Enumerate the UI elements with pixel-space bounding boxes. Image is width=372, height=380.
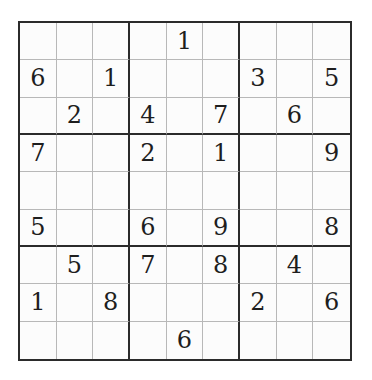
sudoku-cell[interactable]	[313, 322, 350, 359]
sudoku-cell[interactable]	[167, 284, 204, 321]
sudoku-cell[interactable]	[93, 172, 130, 209]
sudoku-cell[interactable]: 6	[20, 60, 57, 97]
sudoku-cell[interactable]	[20, 247, 57, 284]
sudoku-cell[interactable]	[57, 135, 94, 172]
sudoku-cell[interactable]: 7	[203, 98, 240, 135]
sudoku-cell[interactable]	[203, 284, 240, 321]
sudoku-cell[interactable]	[313, 172, 350, 209]
sudoku-cell[interactable]: 5	[57, 247, 94, 284]
sudoku-cell[interactable]	[57, 322, 94, 359]
sudoku-cell[interactable]: 6	[277, 98, 314, 135]
sudoku-cell[interactable]	[240, 23, 277, 60]
sudoku-cell[interactable]	[167, 135, 204, 172]
sudoku-cell[interactable]	[313, 23, 350, 60]
sudoku-cell[interactable]	[277, 322, 314, 359]
sudoku-cell[interactable]	[203, 322, 240, 359]
sudoku-cell[interactable]: 8	[313, 210, 350, 247]
sudoku-cell[interactable]	[93, 23, 130, 60]
sudoku-cell[interactable]	[20, 23, 57, 60]
sudoku-cell[interactable]: 7	[130, 247, 167, 284]
sudoku-cell[interactable]	[240, 98, 277, 135]
sudoku-cell[interactable]: 6	[167, 322, 204, 359]
sudoku-cell[interactable]: 5	[313, 60, 350, 97]
sudoku-cell[interactable]	[277, 23, 314, 60]
sudoku-cell[interactable]	[130, 172, 167, 209]
sudoku-board: 16135247672195698578418266	[18, 21, 352, 361]
sudoku-cell[interactable]: 6	[130, 210, 167, 247]
sudoku-cell[interactable]	[130, 284, 167, 321]
sudoku-cell[interactable]	[130, 60, 167, 97]
sudoku-cell[interactable]: 2	[240, 284, 277, 321]
sudoku-cell[interactable]	[20, 322, 57, 359]
sudoku-cell[interactable]	[57, 210, 94, 247]
sudoku-cell[interactable]: 7	[20, 135, 57, 172]
sudoku-cell[interactable]	[167, 60, 204, 97]
sudoku-cell[interactable]: 1	[20, 284, 57, 321]
sudoku-cell[interactable]: 2	[57, 98, 94, 135]
sudoku-cell[interactable]: 4	[277, 247, 314, 284]
sudoku-cell[interactable]: 8	[93, 284, 130, 321]
sudoku-cell[interactable]	[277, 135, 314, 172]
sudoku-cell[interactable]: 3	[240, 60, 277, 97]
sudoku-cell[interactable]: 9	[203, 210, 240, 247]
sudoku-cell[interactable]: 1	[93, 60, 130, 97]
sudoku-cell[interactable]	[203, 60, 240, 97]
sudoku-cell[interactable]	[57, 172, 94, 209]
sudoku-cell[interactable]	[93, 247, 130, 284]
sudoku-cell[interactable]	[20, 98, 57, 135]
sudoku-cell[interactable]	[240, 172, 277, 209]
sudoku-cell[interactable]: 9	[313, 135, 350, 172]
sudoku-cell[interactable]: 6	[313, 284, 350, 321]
sudoku-cell[interactable]	[130, 23, 167, 60]
sudoku-cell[interactable]	[203, 23, 240, 60]
sudoku-cell[interactable]	[277, 210, 314, 247]
sudoku-cell[interactable]: 8	[203, 247, 240, 284]
sudoku-cell[interactable]	[93, 98, 130, 135]
sudoku-cell[interactable]	[240, 210, 277, 247]
sudoku-cell[interactable]	[93, 210, 130, 247]
sudoku-cell[interactable]	[57, 23, 94, 60]
sudoku-cell[interactable]	[93, 135, 130, 172]
sudoku-cell[interactable]: 2	[130, 135, 167, 172]
sudoku-cell[interactable]	[203, 172, 240, 209]
sudoku-cell[interactable]: 4	[130, 98, 167, 135]
sudoku-cell[interactable]: 5	[20, 210, 57, 247]
sudoku-cell[interactable]	[277, 172, 314, 209]
sudoku-cell[interactable]: 1	[203, 135, 240, 172]
sudoku-cell[interactable]	[57, 284, 94, 321]
sudoku-cell[interactable]	[277, 60, 314, 97]
sudoku-cell[interactable]	[277, 284, 314, 321]
sudoku-cell[interactable]	[130, 322, 167, 359]
sudoku-cell[interactable]	[240, 135, 277, 172]
sudoku-cell[interactable]	[93, 322, 130, 359]
sudoku-cell[interactable]	[167, 98, 204, 135]
sudoku-cell[interactable]	[167, 172, 204, 209]
sudoku-cell[interactable]	[167, 210, 204, 247]
sudoku-cell[interactable]	[313, 98, 350, 135]
sudoku-cell[interactable]	[240, 322, 277, 359]
sudoku-cell[interactable]	[167, 247, 204, 284]
sudoku-cell[interactable]	[20, 172, 57, 209]
sudoku-cell[interactable]: 1	[167, 23, 204, 60]
sudoku-cell[interactable]	[313, 247, 350, 284]
sudoku-cell[interactable]	[57, 60, 94, 97]
sudoku-cell[interactable]	[240, 247, 277, 284]
